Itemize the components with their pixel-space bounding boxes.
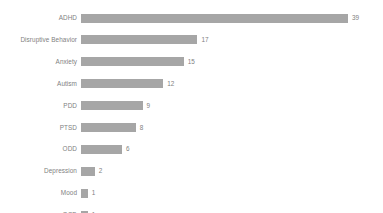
bar-track: 2 bbox=[81, 160, 383, 182]
bar bbox=[81, 14, 348, 23]
bar bbox=[81, 123, 136, 132]
bar bbox=[81, 57, 184, 66]
category-label: PTSD bbox=[0, 124, 81, 132]
value-label: 1 bbox=[88, 211, 96, 213]
bar-row: PDD9 bbox=[0, 95, 383, 117]
bar bbox=[81, 35, 197, 44]
category-label: ODD bbox=[0, 145, 81, 153]
value-label: 6 bbox=[122, 145, 130, 153]
bar-row: Depression2 bbox=[0, 160, 383, 182]
bar-track: 1 bbox=[81, 204, 383, 213]
bar-row: Anxiety15 bbox=[0, 51, 383, 73]
bar bbox=[81, 79, 163, 88]
category-label: Depression bbox=[0, 167, 81, 175]
value-label: 39 bbox=[348, 14, 359, 22]
bar-row: PTSD8 bbox=[0, 117, 383, 139]
value-label: 15 bbox=[184, 58, 195, 66]
bar-row: Disruptive Behavior17 bbox=[0, 29, 383, 51]
bar-track: 9 bbox=[81, 95, 383, 117]
value-label: 1 bbox=[88, 189, 96, 197]
bar-track: 6 bbox=[81, 138, 383, 160]
bar-row: OCD1 bbox=[0, 204, 383, 213]
bar-track: 17 bbox=[81, 29, 383, 51]
value-label: 8 bbox=[136, 124, 144, 132]
bar bbox=[81, 145, 122, 154]
bar-track: 8 bbox=[81, 117, 383, 139]
bar-row: ADHD39 bbox=[0, 7, 383, 29]
value-label: 12 bbox=[163, 80, 174, 88]
bar bbox=[81, 167, 95, 176]
bar-track: 1 bbox=[81, 182, 383, 204]
bar-track: 12 bbox=[81, 73, 383, 95]
bar-row: ODD6 bbox=[0, 138, 383, 160]
bar bbox=[81, 101, 143, 110]
value-label: 9 bbox=[143, 102, 151, 110]
category-label: Disruptive Behavior bbox=[0, 36, 81, 44]
value-label: 17 bbox=[197, 36, 208, 44]
bar-row: Mood1 bbox=[0, 182, 383, 204]
bar-track: 39 bbox=[81, 7, 383, 29]
category-label: Mood bbox=[0, 189, 81, 197]
bar bbox=[81, 211, 88, 213]
value-label: 2 bbox=[95, 167, 103, 175]
bar bbox=[81, 189, 88, 198]
category-label: OCD bbox=[0, 211, 81, 213]
bar-chart: ADHD39Disruptive Behavior17Anxiety15Auti… bbox=[0, 0, 383, 213]
bar-track: 15 bbox=[81, 51, 383, 73]
category-label: Autism bbox=[0, 80, 81, 88]
category-label: PDD bbox=[0, 102, 81, 110]
category-label: Anxiety bbox=[0, 58, 81, 66]
plot-area: ADHD39Disruptive Behavior17Anxiety15Auti… bbox=[0, 0, 383, 213]
bar-row: Autism12 bbox=[0, 73, 383, 95]
category-label: ADHD bbox=[0, 14, 81, 22]
